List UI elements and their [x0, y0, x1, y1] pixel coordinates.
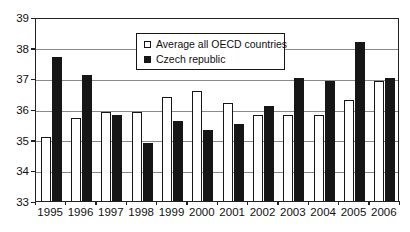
x-tick-mark-6: [217, 201, 218, 205]
x-tick-mark-5: [186, 201, 187, 205]
czech-bar-2006: [385, 78, 395, 201]
czech-bar-1996: [82, 75, 92, 201]
oecd-bar-1997: [101, 112, 111, 201]
x-tick-mark-1: [65, 201, 66, 205]
x-tick-label-1996: 1996: [64, 206, 98, 218]
x-tick-label-2005: 2005: [337, 206, 371, 218]
oecd-bar-2006: [374, 81, 384, 201]
x-tick-label-1999: 1999: [155, 206, 189, 218]
x-tick-label-2006: 2006: [367, 206, 401, 218]
bar-group-1997: [97, 19, 127, 201]
bar-group-2004: [309, 19, 339, 201]
czech-bar-1998: [143, 143, 153, 201]
y-tick-label-35: 35: [0, 135, 29, 147]
x-tick-label-2001: 2001: [215, 206, 249, 218]
y-tick-mark-39: [31, 18, 35, 19]
oecd-bar-1995: [41, 137, 51, 201]
y-tick-mark-35: [31, 140, 35, 141]
bar-chart-figure: Average all OECD countries Czech republi…: [0, 0, 410, 232]
x-tick-label-2002: 2002: [246, 206, 280, 218]
legend-entry-oecd: Average all OECD countries: [144, 38, 278, 50]
y-tick-mark-34: [31, 171, 35, 172]
y-tick-mark-38: [31, 48, 35, 49]
x-tick-mark-4: [156, 201, 157, 205]
czech-bar-2001: [234, 124, 244, 201]
bar-group-2006: [370, 19, 400, 201]
oecd-bar-1998: [132, 112, 142, 201]
y-tick-label-34: 34: [0, 165, 29, 177]
x-tick-mark-3: [126, 201, 127, 205]
legend-entry-czech: Czech republic: [144, 53, 278, 65]
y-tick-mark-36: [31, 110, 35, 111]
czech-bar-1999: [173, 121, 183, 201]
oecd-bar-2003: [283, 115, 293, 201]
y-tick-label-37: 37: [0, 73, 29, 85]
y-tick-label-36: 36: [0, 104, 29, 116]
x-tick-mark-11: [368, 201, 369, 205]
y-tick-label-38: 38: [0, 43, 29, 55]
oecd-bar-2001: [223, 103, 233, 201]
czech-bar-2005: [355, 42, 365, 201]
plot-area: Average all OECD countries Czech republi…: [35, 18, 399, 202]
legend: Average all OECD countries Czech republi…: [136, 33, 285, 70]
legend-label-czech: Czech republic: [156, 53, 225, 65]
czech-bar-2004: [325, 81, 335, 201]
x-tick-label-2000: 2000: [185, 206, 219, 218]
czech-bar-2000: [203, 130, 213, 201]
bar-group-2005: [339, 19, 369, 201]
oecd-bar-2002: [253, 115, 263, 201]
x-tick-label-2004: 2004: [306, 206, 340, 218]
oecd-bar-1999: [162, 97, 172, 201]
x-tick-mark-2: [95, 201, 96, 205]
legend-label-oecd: Average all OECD countries: [156, 38, 287, 50]
x-tick-mark-12: [399, 201, 400, 205]
x-tick-label-2003: 2003: [276, 206, 310, 218]
oecd-bar-1996: [71, 118, 81, 201]
czech-bar-2002: [264, 106, 274, 201]
oecd-bar-2004: [314, 115, 324, 201]
x-tick-mark-9: [308, 201, 309, 205]
x-tick-mark-8: [277, 201, 278, 205]
x-tick-label-1997: 1997: [94, 206, 128, 218]
legend-swatch-czech-icon: [144, 56, 151, 63]
czech-bar-1995: [52, 57, 62, 201]
legend-swatch-oecd-icon: [144, 41, 151, 48]
oecd-bar-2000: [192, 91, 202, 201]
czech-bar-2003: [294, 78, 304, 201]
x-tick-label-1995: 1995: [33, 206, 67, 218]
oecd-bar-2005: [344, 100, 354, 201]
x-tick-mark-0: [35, 201, 36, 205]
y-tick-label-39: 39: [0, 12, 29, 24]
x-tick-label-1998: 1998: [124, 206, 158, 218]
bar-group-1996: [66, 19, 96, 201]
bar-group-1995: [36, 19, 66, 201]
czech-bar-1997: [112, 115, 122, 201]
x-tick-mark-10: [338, 201, 339, 205]
y-tick-mark-37: [31, 79, 35, 80]
x-tick-mark-7: [247, 201, 248, 205]
y-tick-label-33: 33: [0, 196, 29, 208]
